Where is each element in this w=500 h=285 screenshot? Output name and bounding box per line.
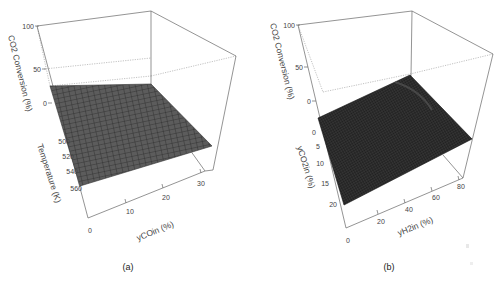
y-tick-label: 500: [58, 138, 70, 145]
y-tick-label: 0: [312, 129, 316, 136]
box-right-vertical-b: [463, 54, 493, 178]
back-edge-b: [298, 25, 323, 92]
y-tick-label: 520: [62, 153, 74, 160]
scan-artifact: [470, 262, 473, 265]
z-axis-label: CO2 Conversion (%): [268, 22, 297, 101]
box-bottom-inner-a: [190, 150, 205, 171]
back-edge-a: [151, 56, 236, 76]
box-right-vertical-a: [213, 56, 236, 170]
y-axis-label: yCO2in (%): [295, 145, 317, 190]
box-top-b: [298, 11, 493, 54]
z-tick-label: 0: [43, 100, 47, 107]
y-tick-label: 15: [321, 180, 329, 187]
y-tick-label: 540: [66, 168, 78, 175]
panel-label-b: (b): [384, 262, 395, 272]
x-axis-label: yCOin (%): [135, 219, 175, 243]
z-tick-label: 100: [283, 22, 295, 29]
x-tick-label: 80: [457, 183, 465, 190]
box-top-a: [37, 11, 236, 56]
z-tick-label: 50: [295, 64, 303, 71]
back-edge-b: [410, 54, 493, 74]
surface-b: [318, 75, 472, 205]
plot-a: 100 50 0 500 520 540 560 0 10 20 30 CO2 …: [6, 11, 236, 272]
back-grid-a: [44, 58, 151, 69]
x-tick-label: 10: [126, 208, 134, 215]
y-tick-label: 10: [316, 160, 324, 167]
plot-b: 100 50 0 0 5 10 15 20 0 20 40 60 80 CO2 …: [268, 11, 493, 272]
x-tick-label: 0: [88, 227, 92, 234]
panel-label-a: (a): [123, 262, 134, 272]
z-tick-label: 50: [33, 66, 41, 73]
x-tick-label: 20: [377, 218, 385, 225]
box-bottom-inner-b: [443, 155, 463, 178]
z-tick-label: 0: [307, 98, 311, 105]
x-axis-label: yH2in (%): [396, 215, 434, 238]
z-tick-label: 100: [22, 23, 34, 30]
x-tick-label: 60: [432, 194, 440, 201]
box-bottom-right-a: [205, 170, 213, 171]
z-axis-label: CO2 Conversion (%): [6, 34, 35, 113]
y-tick-label: 5: [316, 143, 320, 150]
scan-artifact: [466, 244, 469, 248]
x-tick-label: 30: [197, 180, 205, 187]
back-edge-a: [37, 26, 50, 86]
box-back-vertical-b: [411, 11, 412, 76]
figure-canvas: 100 50 0 500 520 540 560 0 10 20 30 CO2 …: [0, 0, 500, 285]
x-tick-label: 20: [162, 194, 170, 201]
y-tick-label: 20: [329, 201, 337, 208]
y-tick-label: 560: [70, 185, 82, 192]
x-tick-label: 0: [346, 237, 350, 244]
y-axis-label: Temperature (K): [35, 143, 64, 205]
x-tick-label: 40: [405, 206, 413, 213]
